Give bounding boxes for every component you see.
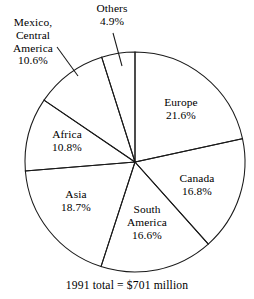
pie-label-others-name: Others: [76, 2, 148, 15]
pie-label-asia-name: Asia: [44, 188, 108, 201]
pie-label-south-america-line2: America: [111, 216, 183, 229]
pie-label-south-america-percent: 16.6%: [111, 229, 183, 242]
pie-chart-figure: Mexico, Central America 10.6% Others 4.9…: [0, 0, 254, 299]
pie-label-europe: Europe 21.6%: [145, 96, 217, 122]
pie-label-canada-percent: 16.8%: [161, 185, 233, 198]
pie-slice-others[interactable]: [102, 52, 135, 162]
pie-label-mexico-central-america-line1: Mexico,: [0, 16, 66, 29]
pie-label-others-percent: 4.9%: [76, 15, 148, 28]
pie-label-canada-name: Canada: [161, 172, 233, 185]
pie-label-africa: Africa 10.8%: [33, 128, 101, 154]
pie-label-asia-percent: 18.7%: [44, 201, 108, 214]
pie-label-mexico-central-america-line2: Central: [0, 29, 66, 42]
pie-label-africa-name: Africa: [33, 128, 101, 141]
pie-label-asia: Asia 18.7%: [44, 188, 108, 214]
pie-label-europe-name: Europe: [145, 96, 217, 109]
pie-label-mexico-central-america-percent: 10.6%: [0, 54, 66, 67]
pie-label-mexico-central-america-line3: America: [0, 42, 66, 55]
leader-line-others: [113, 33, 122, 66]
pie-label-europe-percent: 21.6%: [145, 109, 217, 122]
pie-label-others: Others 4.9%: [76, 2, 148, 28]
pie-label-africa-percent: 10.8%: [33, 141, 101, 154]
chart-caption: 1991 total = $701 million: [0, 279, 254, 292]
pie-label-canada: Canada 16.8%: [161, 172, 233, 198]
pie-label-south-america: South America 16.6%: [111, 203, 183, 241]
pie-label-mexico-central-america: Mexico, Central America 10.6%: [0, 16, 66, 67]
pie-label-south-america-line1: South: [111, 203, 183, 216]
